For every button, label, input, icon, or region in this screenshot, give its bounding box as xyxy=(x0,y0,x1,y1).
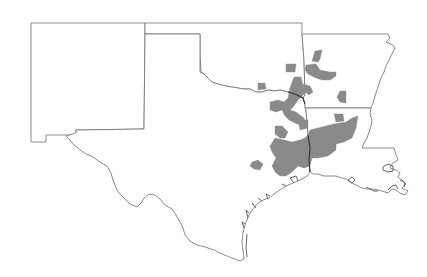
highlighted-region xyxy=(258,83,266,90)
highlighted-region xyxy=(334,114,344,122)
map-canvas xyxy=(0,0,427,277)
state-new-mexico xyxy=(31,23,145,142)
highlighted-region xyxy=(286,64,296,72)
highlighted-region xyxy=(298,120,308,130)
